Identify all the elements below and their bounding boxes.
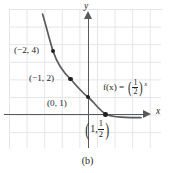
data-point-marker: [103, 112, 108, 117]
function-base-denominator: 2: [132, 88, 138, 97]
paren-open: (: [85, 123, 89, 137]
function-label-lhs: f(x): [103, 82, 117, 92]
paren-close: ): [105, 123, 109, 137]
point-label-1-half-prefix: 1,: [90, 123, 98, 134]
function-label-equals: =: [119, 82, 124, 92]
point-label-neg1-2: (−1, 2): [29, 74, 54, 83]
function-paren-open: (: [128, 81, 132, 94]
figure-caption: (b): [0, 155, 175, 166]
function-label: f(x) = (12)x: [103, 79, 147, 97]
fraction-denominator: 2: [98, 130, 104, 139]
point-label-0-1: (0, 1): [47, 99, 67, 108]
point-label-1-half: (1,12): [84, 120, 110, 140]
point-label-neg2-4: (−2, 4): [14, 46, 39, 55]
fraction-one-half: 12: [98, 119, 104, 139]
exponential-decay-figure: x y (−2, 4) (−1, 2) (0, 1) (1,12) f(x) =…: [0, 0, 175, 173]
function-paren-close: ): [139, 81, 143, 94]
function-exponent: x: [144, 80, 147, 87]
exponential-curve: [0, 0, 175, 173]
function-base-fraction: 12: [132, 79, 138, 97]
data-point-marker: [68, 77, 73, 82]
